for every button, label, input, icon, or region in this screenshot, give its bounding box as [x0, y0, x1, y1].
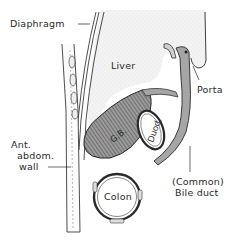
diaphragm-label: Diaphragm [10, 18, 65, 29]
abdominal-wall-shape [62, 44, 80, 232]
colon-label: Colon [104, 191, 132, 202]
abdominal-wall-label-line3: wall [19, 161, 39, 172]
liver-label: Liver [111, 60, 135, 71]
bile-duct-label-line1: (Common) [172, 176, 224, 187]
porta-vessel-dot [185, 51, 188, 54]
cystic-duct-shape [142, 88, 178, 97]
porta-label: Porta [197, 84, 223, 95]
bile-duct-label-line2: Bile duct [175, 187, 218, 198]
abdominal-wall-label-line2: abdom. [17, 150, 54, 161]
abdominal-wall-label-line1: Ant. [11, 139, 31, 150]
anatomy-diagram: G.B. Duod. [0, 0, 239, 245]
